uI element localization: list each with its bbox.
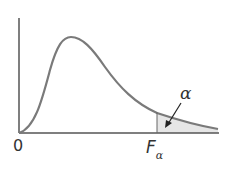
x-tick-f-alpha: Fα <box>146 137 163 160</box>
f-main: F <box>146 137 156 157</box>
f-subscript: α <box>156 149 163 162</box>
x-tick-zero: 0 <box>13 136 23 155</box>
f-distribution-diagram <box>0 0 235 169</box>
alpha-annotation: α <box>180 83 191 103</box>
